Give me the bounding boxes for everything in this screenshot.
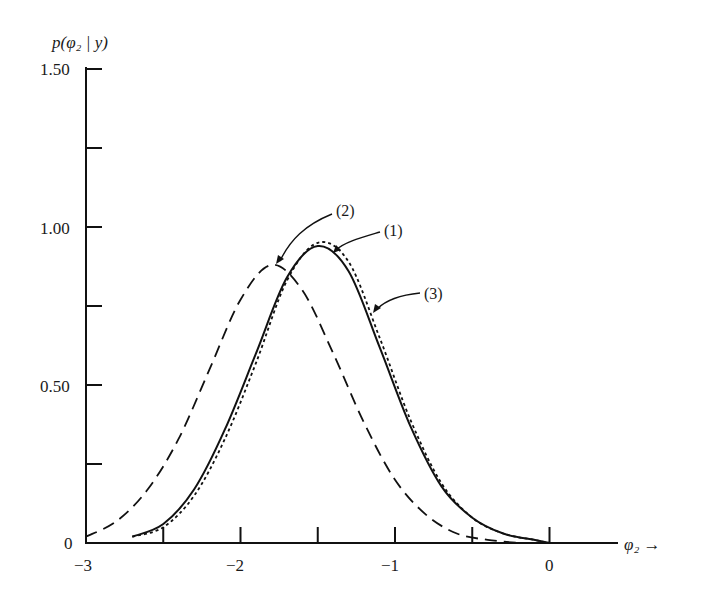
y-axis-title: p(φ₂ | y): [51, 33, 108, 52]
x-tick-label-m1: −1: [381, 556, 399, 575]
y-tick-label-0.50: 0.50: [40, 377, 70, 396]
arrow-2: [280, 214, 332, 261]
curve-3-dotted: [132, 242, 549, 543]
x-axis-title: φ₂ →: [624, 535, 661, 554]
y-tick-label-1.50: 1.50: [40, 60, 70, 79]
axes: [86, 67, 618, 544]
curve-1-solid: [132, 246, 549, 543]
y-tick-label-1.00: 1.00: [40, 219, 70, 238]
arrowhead-3: [373, 304, 381, 313]
x-tick-label-m2: −2: [226, 556, 244, 575]
y-ticks: [86, 69, 102, 464]
annotation-3: (3): [424, 285, 443, 303]
annotation-2: (2): [336, 202, 355, 220]
x-tick-label-m3: −3: [74, 556, 92, 575]
x-tick-label-0: 0: [545, 556, 554, 575]
arrow-3: [377, 293, 420, 309]
arrow-1: [336, 232, 380, 250]
annotation-1: (1): [384, 222, 403, 240]
y-tick-label-0: 0: [64, 534, 73, 553]
density-chart: 1.50 1.00 0.50 0 −3 −2 −1 0 p(φ₂ | y) φ₂…: [0, 0, 701, 598]
